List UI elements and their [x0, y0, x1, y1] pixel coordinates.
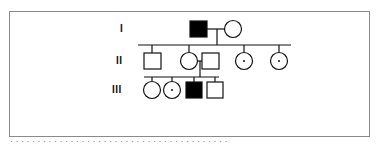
- female-i-2: [225, 21, 242, 38]
- male-ii-1: [144, 53, 161, 69]
- caption-cutoff: · · · · · · · · · · · · · · · · · · · · …: [10, 141, 372, 147]
- female-ii-2: [181, 53, 198, 70]
- female-iii-1: [144, 82, 161, 99]
- male-ii-3-spouse: [202, 53, 219, 69]
- affected-male-i-1: [190, 21, 207, 37]
- carrier-dot-icon: [171, 89, 173, 91]
- affected-male-iii-3: [186, 82, 202, 98]
- carrier-dot-icon: [243, 60, 245, 62]
- pedigree-chart: [0, 0, 381, 147]
- male-iii-4: [207, 82, 223, 98]
- carrier-dot-icon: [278, 60, 280, 62]
- individuals: [144, 21, 288, 99]
- caption-text: · · · · · · · · · · · · · · · · · · · · …: [10, 141, 372, 146]
